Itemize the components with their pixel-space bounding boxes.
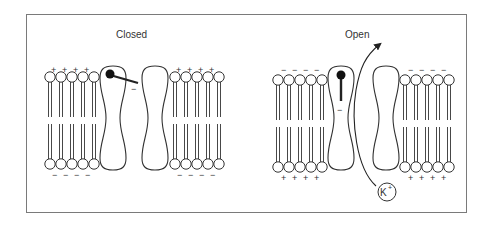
svg-text:−: − <box>303 65 308 75</box>
svg-text:−: − <box>441 65 446 75</box>
svg-text:+: + <box>51 65 56 75</box>
membrane-right-closed <box>170 72 224 169</box>
ion-channel-diagram: Closed + + + + + + + + − − − − − − − − <box>0 0 492 226</box>
svg-text:−: − <box>131 84 136 94</box>
bottom-charges-closed: − − − − − − − − <box>52 170 215 180</box>
closed-label: Closed <box>116 29 147 40</box>
svg-text:+: + <box>388 184 392 191</box>
svg-text:−: − <box>188 170 193 180</box>
potassium-ion: K + <box>378 183 396 201</box>
bottom-charges-open: + + + + + + + + <box>281 173 446 183</box>
svg-text:+: + <box>430 173 435 183</box>
svg-text:+: + <box>281 173 286 183</box>
membrane-right-open <box>400 75 454 172</box>
channel-subunit-right-open <box>373 66 399 170</box>
svg-text:−: − <box>85 170 90 180</box>
svg-text:−: − <box>337 105 342 115</box>
svg-text:−: − <box>177 170 182 180</box>
svg-text:+: + <box>62 65 67 75</box>
svg-text:K: K <box>380 187 387 198</box>
svg-text:−: − <box>63 170 68 180</box>
svg-text:−: − <box>408 65 413 75</box>
svg-text:−: − <box>281 65 286 75</box>
svg-text:+: + <box>84 65 89 75</box>
channel-subunit-left-closed <box>100 66 126 170</box>
open-label: Open <box>345 29 369 40</box>
svg-text:+: + <box>419 173 424 183</box>
svg-text:+: + <box>441 173 446 183</box>
top-charges-open: − − − − − − − − <box>281 65 446 75</box>
svg-text:−: − <box>74 170 79 180</box>
svg-text:−: − <box>210 170 215 180</box>
svg-text:+: + <box>408 173 413 183</box>
svg-text:−: − <box>419 65 424 75</box>
svg-text:+: + <box>292 173 297 183</box>
membrane-left-open <box>273 75 327 172</box>
closed-panel: Closed + + + + + + + + − − − − − − − − <box>45 29 224 180</box>
svg-text:+: + <box>303 173 308 183</box>
svg-text:−: − <box>292 65 297 75</box>
svg-text:+: + <box>314 173 319 183</box>
svg-text:−: − <box>52 170 57 180</box>
open-panel: Open − − − − − − − − + + + + + + + + <box>273 29 454 201</box>
svg-text:−: − <box>199 170 204 180</box>
svg-text:+: + <box>73 65 78 75</box>
svg-text:−: − <box>430 65 435 75</box>
svg-text:−: − <box>314 65 319 75</box>
membrane-left-closed <box>45 72 99 169</box>
channel-subunit-right-closed <box>142 66 168 170</box>
